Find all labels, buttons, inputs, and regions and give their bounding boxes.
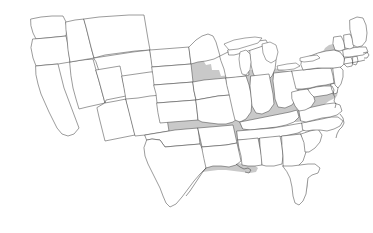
state-maine <box>350 17 367 47</box>
state-oregon <box>31 36 70 66</box>
state-mississippi <box>238 138 262 166</box>
state-washington <box>31 16 67 39</box>
state-indiana <box>250 74 274 114</box>
state-connecticut <box>344 57 353 67</box>
us-map-svg <box>0 0 373 233</box>
state-nebraska <box>154 82 196 103</box>
state-arkansas <box>198 125 237 147</box>
us-distribution-map-figure <box>0 0 373 233</box>
state-south-dakota <box>152 64 193 85</box>
state-alabama <box>260 136 283 166</box>
state-north-dakota <box>150 47 191 67</box>
state-louisiana <box>202 143 241 168</box>
state-kansas <box>157 100 198 123</box>
